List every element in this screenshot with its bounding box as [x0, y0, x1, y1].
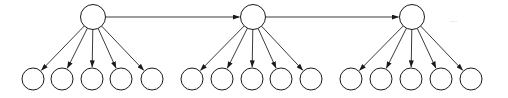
fanout-edge-p3-to-c13	[411, 29, 412, 67]
node-graph-diagram: ...	[0, 0, 508, 98]
fanout-edge-p2-to-c7	[227, 28, 247, 68]
child-node-c11[interactable]	[340, 68, 362, 90]
child-node-c4[interactable]	[110, 68, 132, 90]
parent-node-p3[interactable]	[400, 5, 425, 30]
parent-node-p1[interactable]	[81, 5, 106, 30]
child-node-c1[interactable]	[22, 68, 44, 90]
fanout-edge-p3-to-c14	[417, 28, 436, 68]
child-node-c9[interactable]	[270, 68, 292, 90]
child-node-c5[interactable]	[141, 68, 163, 90]
fanout-edge-p1-to-c4	[98, 28, 116, 68]
child-node-c6[interactable]	[181, 68, 203, 90]
child-node-c14[interactable]	[430, 68, 452, 90]
fanout-edge-p3-to-c12	[386, 28, 406, 68]
child-node-c10[interactable]	[300, 68, 322, 90]
fanout-edge-layer	[41, 26, 462, 71]
child-node-c2[interactable]	[51, 68, 73, 90]
ellipsis-annotation: ...	[450, 16, 458, 23]
fanout-edge-p1-to-c2	[67, 28, 87, 68]
fanout-edge-p2-to-c10	[262, 26, 303, 70]
child-node-c3[interactable]	[81, 68, 103, 90]
fanout-edge-p2-to-c8	[252, 29, 253, 67]
annotation-layer: ...	[450, 16, 458, 23]
fanout-edge-p1-to-c3	[92, 29, 93, 67]
child-node-c12[interactable]	[370, 68, 392, 90]
child-node-layer	[22, 68, 482, 90]
child-node-c15[interactable]	[460, 68, 482, 90]
fanout-edge-p2-to-c9	[258, 28, 276, 68]
fanout-edge-p1-to-c5	[102, 26, 144, 70]
child-node-c13[interactable]	[400, 68, 422, 90]
parent-node-p2[interactable]	[241, 5, 266, 30]
child-node-c7[interactable]	[211, 68, 233, 90]
child-node-c8[interactable]	[241, 68, 263, 90]
diagram-canvas: ...	[0, 0, 508, 98]
